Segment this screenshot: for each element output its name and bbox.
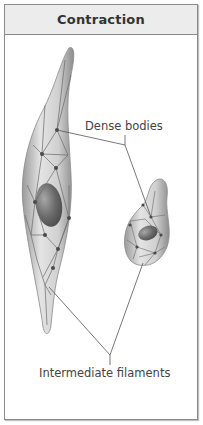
contraction-panel: Contraction (4, 4, 198, 420)
panel-title: Contraction (5, 5, 197, 35)
contracted-cell (125, 179, 170, 265)
intermediate-filaments-label: Intermediate filaments (39, 366, 170, 380)
contraction-diagram (5, 35, 197, 419)
dense-bodies-label: Dense bodies (85, 119, 163, 133)
intermediate-filaments-callout (49, 263, 143, 365)
elongated-cell (22, 48, 73, 334)
